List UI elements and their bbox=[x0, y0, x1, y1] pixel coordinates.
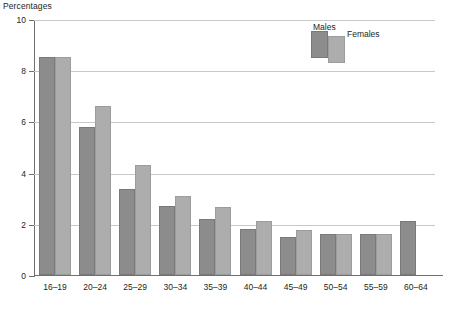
legend-label-females: Females bbox=[347, 29, 380, 39]
y-axis-tick-label: 10 bbox=[17, 15, 26, 25]
x-axis-line bbox=[34, 275, 443, 276]
bar-males bbox=[240, 229, 256, 275]
bar-females bbox=[175, 196, 191, 275]
bar-males bbox=[119, 189, 135, 275]
x-axis-labels: 16–1920–2425–2930–3435–3940–4445–4950–54… bbox=[34, 282, 435, 298]
x-axis-tick-label: 60–64 bbox=[404, 282, 428, 292]
bar-males bbox=[79, 127, 95, 275]
x-axis-tick-label: 55–59 bbox=[364, 282, 388, 292]
y-axis-tick-label: 6 bbox=[21, 117, 26, 127]
bar-females bbox=[256, 221, 272, 275]
bar-males bbox=[159, 206, 175, 275]
bar-group bbox=[199, 19, 231, 275]
bar-group bbox=[119, 19, 151, 275]
bar-group bbox=[39, 19, 71, 275]
y-axis-tick-label: 4 bbox=[21, 169, 26, 179]
x-axis-tick-label: 40–44 bbox=[244, 282, 268, 292]
y-axis-tick-label: 0 bbox=[21, 271, 26, 281]
legend-label-males: Males bbox=[313, 22, 336, 32]
bar-females bbox=[336, 234, 352, 275]
x-axis-tick-label: 16–19 bbox=[43, 282, 67, 292]
bar-group bbox=[79, 19, 111, 275]
y-axis-title: Percentages bbox=[3, 1, 52, 11]
legend-swatch-males bbox=[311, 31, 328, 58]
bar-males bbox=[320, 234, 336, 275]
x-axis-tick-label: 50–54 bbox=[324, 282, 348, 292]
bar-females bbox=[95, 106, 111, 275]
y-axis-tick-label: 8 bbox=[21, 66, 26, 76]
bar-females bbox=[215, 207, 231, 275]
x-axis-tick-label: 45–49 bbox=[284, 282, 308, 292]
x-axis-tick-label: 20–24 bbox=[83, 282, 107, 292]
bar-males bbox=[199, 219, 215, 275]
bar-males bbox=[360, 234, 376, 275]
bar-group bbox=[280, 19, 312, 275]
y-axis-tick bbox=[29, 276, 34, 277]
bar-females bbox=[296, 230, 312, 275]
bar-males bbox=[280, 237, 296, 275]
bar-chart: Percentages 0246810 16–1920–2425–2930–34… bbox=[0, 0, 457, 311]
bar-males bbox=[39, 57, 55, 275]
bar-group bbox=[159, 19, 191, 275]
bar-group bbox=[240, 19, 272, 275]
bar-males bbox=[400, 221, 416, 275]
x-axis-tick-label: 35–39 bbox=[204, 282, 228, 292]
bar-females bbox=[55, 57, 71, 275]
y-axis-tick-label: 2 bbox=[21, 220, 26, 230]
legend-swatch-females bbox=[328, 36, 345, 63]
x-axis-tick-label: 30–34 bbox=[163, 282, 187, 292]
chart-legend: Males Females bbox=[311, 22, 406, 64]
x-axis-tick-label: 25–29 bbox=[123, 282, 147, 292]
bar-females bbox=[376, 234, 392, 275]
bar-females bbox=[135, 165, 151, 275]
